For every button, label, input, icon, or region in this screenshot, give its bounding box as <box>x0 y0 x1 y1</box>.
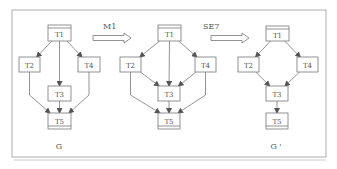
node-t3: T3 <box>48 86 71 101</box>
node-label: T4 <box>84 62 94 70</box>
graph-transformation-diagram: T1T2T4T3T5T1T2T4T3T5T1T2T4T3T5 GG ' M1SE… <box>0 0 337 169</box>
node-label: T2 <box>126 62 135 70</box>
node-label: T4 <box>201 62 211 70</box>
node-t5: T5 <box>158 113 180 129</box>
node-label: T1 <box>55 31 64 39</box>
node-t2: T2 <box>19 57 40 72</box>
node-label: T5 <box>55 118 64 126</box>
transform-label: M1 <box>103 22 116 31</box>
node-label: T2 <box>25 62 34 70</box>
node-t3: T3 <box>158 86 180 101</box>
node-t4: T4 <box>297 57 318 72</box>
node-t4: T4 <box>195 57 216 72</box>
node-label: T1 <box>273 32 282 40</box>
diagram-canvas: T1T2T4T3T5T1T2T4T3T5T1T2T4T3T5 GG ' M1SE… <box>0 0 337 169</box>
transform-label: SE7 <box>203 22 219 31</box>
node-label: T5 <box>272 118 281 126</box>
edge-T1-T3 <box>169 41 170 86</box>
node-t3: T3 <box>266 86 288 101</box>
node-t1: T1 <box>158 25 181 41</box>
node-t1: T1 <box>266 26 289 41</box>
node-label: T3 <box>272 91 281 99</box>
graph-label-g: G <box>56 142 62 151</box>
node-label: T5 <box>164 118 173 126</box>
node-t2: T2 <box>238 57 259 72</box>
node-t1: T1 <box>48 25 71 41</box>
node-label: T2 <box>244 62 253 70</box>
node-label: T1 <box>165 31 174 39</box>
node-t2: T2 <box>120 57 141 72</box>
node-t4: T4 <box>78 57 100 72</box>
node-label: T3 <box>55 91 64 99</box>
graph-label-g_prime: G ' <box>270 142 281 151</box>
node-t5: T5 <box>48 113 71 129</box>
node-label: T4 <box>303 62 313 70</box>
node-label: T3 <box>164 91 173 99</box>
node-t5: T5 <box>266 113 288 129</box>
